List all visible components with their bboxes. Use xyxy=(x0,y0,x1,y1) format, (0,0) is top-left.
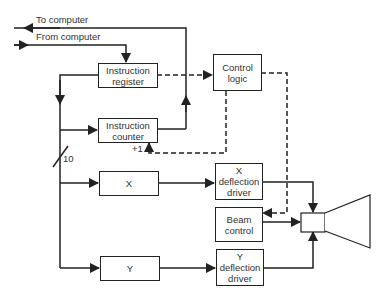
block-label: Y xyxy=(237,251,243,262)
beam-control-block: Beam control xyxy=(215,207,263,242)
to-computer-label: To computer xyxy=(36,14,88,25)
display-processor-block-diagram: To computer From computer +1 10 Instruct… xyxy=(0,0,385,302)
block-label: Instruction xyxy=(106,65,150,76)
from-computer-line xyxy=(14,45,126,62)
control-logic-block: Control logic xyxy=(213,54,262,91)
block-label: Control xyxy=(222,62,253,73)
block-label: Beam xyxy=(227,214,252,225)
block-label: X xyxy=(236,165,242,176)
plus-one-label: +1 xyxy=(132,143,143,154)
y-deflection-driver-block: Y deflection driver xyxy=(216,249,264,286)
instruction-register-block: Instruction register xyxy=(98,63,158,88)
block-label: deflection xyxy=(219,176,260,187)
bus-width-label: 10 xyxy=(63,153,74,164)
block-label: logic xyxy=(228,73,248,84)
block-label: counter xyxy=(112,131,144,142)
crt-icon xyxy=(301,195,370,248)
block-label: Instruction xyxy=(106,120,150,131)
block-label: control xyxy=(225,225,254,236)
x-register-block: X xyxy=(99,171,159,196)
block-label: deflection xyxy=(220,262,261,273)
connection-lines xyxy=(0,0,385,302)
x-deflection-driver-block: X deflection driver xyxy=(215,163,263,200)
block-label: driver xyxy=(228,273,252,284)
block-label: Y xyxy=(127,263,133,274)
block-label: X xyxy=(126,178,132,189)
from-computer-label: From computer xyxy=(36,31,100,42)
instruction-counter-block: Instruction counter xyxy=(98,118,158,143)
block-label: driver xyxy=(227,187,251,198)
y-register-block: Y xyxy=(100,256,160,281)
block-label: register xyxy=(112,76,144,87)
